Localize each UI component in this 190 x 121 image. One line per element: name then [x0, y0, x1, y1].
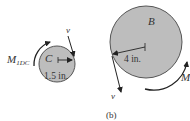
- figure-caption: (b): [106, 110, 117, 120]
- disk-b-radius-label: 4 in.: [124, 54, 141, 64]
- disk-b: [110, 6, 182, 78]
- disk-b-velocity-label: v: [111, 91, 115, 101]
- moment-c-label: M1DC: [6, 53, 30, 67]
- disk-b-body: [110, 6, 182, 78]
- disk-c-velocity-label: v: [66, 25, 70, 35]
- disk-c-label: C: [45, 52, 53, 64]
- gear-diagram: C 1.5 in. v M1DC B 4 in. v M (b): [0, 0, 190, 121]
- disk-c-radius-label: 1.5 in.: [44, 71, 68, 81]
- disk-b-label: B: [148, 15, 155, 27]
- moment-b-label: M: [180, 71, 190, 83]
